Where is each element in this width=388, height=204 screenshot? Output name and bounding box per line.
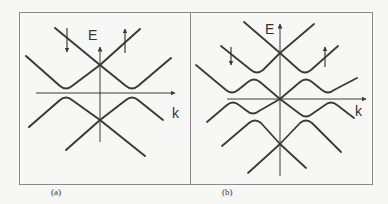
energy-axis-label: E	[265, 21, 274, 37]
bands-b	[196, 22, 357, 173]
band-structure-figure: E k	[0, 0, 388, 204]
band-line	[66, 120, 145, 156]
band-line	[280, 24, 314, 53]
figure-canvas: E k	[0, 0, 388, 204]
band-line	[100, 58, 171, 89]
bands-a	[26, 28, 171, 156]
band-line	[222, 121, 280, 147]
band-line	[100, 29, 140, 65]
panel-a: E k	[26, 27, 180, 156]
momentum-axis-label: k	[355, 103, 363, 119]
band-line	[207, 99, 280, 122]
band-line	[280, 78, 357, 99]
band-line	[29, 98, 100, 128]
band-line	[280, 121, 341, 153]
band-line	[221, 46, 280, 73]
panel-a-frame	[20, 13, 191, 185]
panel-b: E k	[196, 21, 366, 176]
band-line	[26, 56, 100, 89]
panel-b-caption: (b)	[222, 187, 233, 197]
momentum-axis-label: k	[172, 105, 180, 121]
band-line	[100, 98, 163, 121]
band-line	[244, 22, 280, 53]
band-line	[196, 65, 280, 99]
band-line	[248, 144, 306, 173]
energy-axis-label: E	[88, 27, 97, 43]
band-line	[280, 46, 338, 73]
panel-a-caption: (a)	[51, 187, 61, 197]
band-line	[280, 99, 354, 118]
